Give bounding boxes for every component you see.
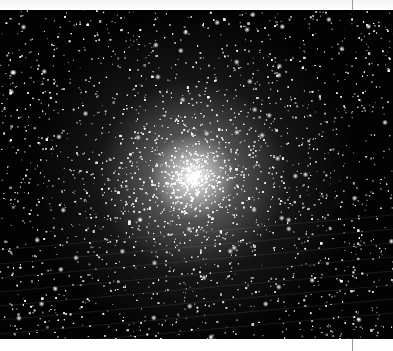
top-page-margin xyxy=(0,0,393,10)
page-edge-line-top xyxy=(352,0,353,10)
caption-strip xyxy=(0,339,393,351)
page-edge-line-bottom xyxy=(352,339,353,351)
star-cluster-photo xyxy=(0,10,393,339)
